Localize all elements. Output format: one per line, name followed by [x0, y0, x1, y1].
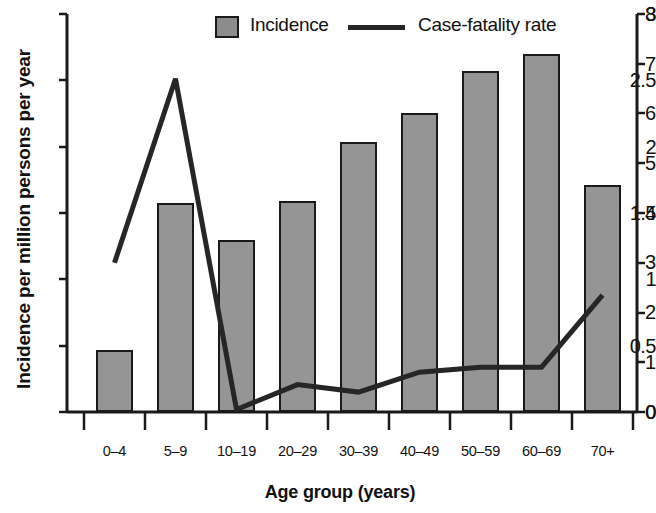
x-tick-label-5-9: 5–9 [145, 443, 206, 459]
legend-label-incidence: Incidence [250, 14, 329, 36]
legend-line-case-fatality-rate [348, 25, 405, 30]
y-tick-right-7: 7 [645, 53, 656, 76]
y-tick-right-5: 5 [645, 152, 656, 175]
x-tick-label-60-69: 60–69 [511, 443, 572, 459]
bar-10-19 [218, 240, 255, 412]
y-tick-right-0: 0 [645, 401, 656, 424]
chart-figure: Incidence per million persons per year A… [0, 0, 656, 513]
y-tick-right-4: 4 [645, 202, 656, 225]
bar-40-49 [401, 113, 438, 412]
bar-50-59 [462, 71, 499, 412]
x-tick-label-40-49: 40–49 [389, 443, 450, 459]
x-tick-label-50-59: 50–59 [450, 443, 511, 459]
bar-0-4 [96, 350, 133, 412]
x-axis-title: Age group (years) [60, 482, 620, 503]
x-tick-label-10-19: 10–19 [206, 443, 267, 459]
y-tick-right-8: 8 [645, 3, 656, 26]
bar-30-39 [340, 142, 377, 412]
y-tick-right-3: 3 [645, 251, 656, 274]
bar-70plus [584, 185, 621, 412]
x-tick-label-30-39: 30–39 [328, 443, 389, 459]
bar-60-69 [523, 54, 560, 412]
x-tick-label-20-29: 20–29 [267, 443, 328, 459]
x-tick-label-70plus: 70+ [572, 443, 633, 459]
legend-swatch-incidence [215, 16, 239, 38]
x-tick-label-0-4: 0–4 [84, 443, 145, 459]
bar-5-9 [157, 203, 194, 412]
y-tick-right-6: 6 [645, 102, 656, 125]
bar-20-29 [279, 201, 316, 412]
y-axis-title-left: Incidence per million persons per year [13, 9, 35, 429]
legend-label-case-fatality-rate: Case-fatality rate [418, 14, 556, 36]
y-tick-right-2: 2 [645, 301, 656, 324]
y-tick-right-1: 1 [645, 351, 656, 374]
